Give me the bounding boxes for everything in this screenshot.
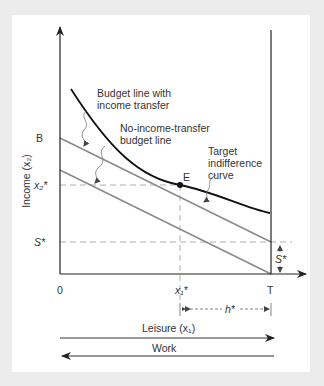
x-axis-label: Leisure (x₁) (142, 322, 195, 334)
label-b: B (36, 132, 43, 144)
annotation-budget-transfer-1: Budget line with (97, 87, 171, 99)
label-t: T (267, 284, 273, 296)
label-s-star-right: S* (275, 253, 286, 265)
label-s-star: S* (34, 236, 45, 248)
label-x1-star: x₁* (175, 284, 188, 296)
annotation-no-transfer-1: No-income-transfer (120, 122, 210, 134)
annotation-budget-transfer-2: income transfer (97, 99, 169, 111)
y-axis-label: Income (x₂) (20, 141, 32, 221)
work-label: Work (152, 342, 176, 354)
annotation-indifference-2: indifference (208, 157, 262, 169)
h-star-left-arrow (182, 307, 186, 311)
budget-line-with-transfer (60, 138, 271, 242)
label-e: E (183, 171, 190, 183)
annotation-no-transfer-2: budget line (120, 134, 171, 146)
label-origin: 0 (57, 284, 63, 296)
budget-line-no-transfer (60, 170, 271, 274)
label-x2-star: x₂* (34, 179, 47, 191)
label-h-star: h* (225, 303, 235, 315)
annotation-indifference-1: Target (208, 145, 237, 157)
pointer-budget-no-transfer (95, 146, 105, 183)
annotation-indifference-3: curve (208, 169, 234, 181)
pointer-budget-transfer (82, 110, 87, 146)
dashed-guides (60, 185, 292, 300)
